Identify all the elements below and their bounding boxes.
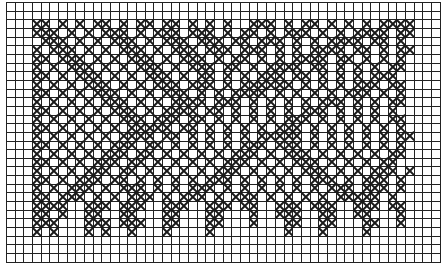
- grid-cell: [85, 237, 94, 246]
- stitch-cell: [267, 98, 276, 107]
- stitch-cell: [189, 159, 198, 168]
- grid-cell: [415, 107, 424, 116]
- grid-cell: [276, 254, 285, 263]
- grid-cell: [311, 245, 320, 254]
- grid-cell: [258, 254, 267, 263]
- grid-cell: [423, 228, 432, 237]
- grid-cell: [406, 228, 415, 237]
- grid-cell: [7, 90, 16, 99]
- grid-cell: [16, 81, 25, 90]
- grid-cell: [224, 211, 233, 220]
- grid-cell: [146, 237, 155, 246]
- grid-cell: [24, 245, 33, 254]
- stitch-cell: [276, 90, 285, 99]
- grid-cell: [293, 228, 302, 237]
- grid-cell: [276, 3, 285, 12]
- grid-cell: [423, 202, 432, 211]
- stitch-cell: [102, 20, 111, 29]
- stitch-cell: [311, 20, 320, 29]
- stitch-cell: [102, 202, 111, 211]
- grid-cell: [267, 3, 276, 12]
- grid-cell: [415, 55, 424, 64]
- grid-cell: [406, 64, 415, 73]
- grid-cell: [337, 219, 346, 228]
- grid-cell: [154, 3, 163, 12]
- stitch-cell: [354, 167, 363, 176]
- grid-cell: [432, 107, 441, 116]
- grid-cell: [406, 98, 415, 107]
- grid-cell: [146, 245, 155, 254]
- grid-cell: [423, 237, 432, 246]
- grid-cell: [432, 150, 441, 159]
- grid-cell: [198, 254, 207, 263]
- grid-cell: [189, 245, 198, 254]
- grid-cell: [389, 245, 398, 254]
- grid-cell: [7, 29, 16, 38]
- grid-cell: [7, 254, 16, 263]
- grid-cell: [380, 254, 389, 263]
- grid-cell: [423, 133, 432, 142]
- grid-cell: [337, 228, 346, 237]
- grid-cell: [423, 211, 432, 220]
- grid-cell: [293, 12, 302, 21]
- grid-cell: [345, 219, 354, 228]
- grid-cell: [16, 219, 25, 228]
- grid-cell: [415, 159, 424, 168]
- grid-cell: [16, 133, 25, 142]
- grid-cell: [16, 20, 25, 29]
- grid-cell: [250, 3, 259, 12]
- grid-cell: [302, 245, 311, 254]
- grid-cell: [380, 219, 389, 228]
- grid-cell: [406, 142, 415, 151]
- grid-cell: [33, 254, 42, 263]
- grid-cell: [224, 237, 233, 246]
- grid-cell: [363, 237, 372, 246]
- grid-cell: [137, 245, 146, 254]
- grid-cell: [423, 98, 432, 107]
- grid-cell: [42, 245, 51, 254]
- stitch-cell: [328, 185, 337, 194]
- grid-cell: [59, 245, 68, 254]
- stitch-cell: [42, 72, 51, 81]
- grid-cell: [432, 124, 441, 133]
- grid-cell: [111, 254, 120, 263]
- grid-cell: [432, 72, 441, 81]
- grid-cell: [76, 237, 85, 246]
- grid-cell: [345, 237, 354, 246]
- stitch-cell: [267, 133, 276, 142]
- grid-cell: [389, 237, 398, 246]
- grid-cell: [432, 116, 441, 125]
- stitch-cell: [198, 98, 207, 107]
- grid-cell: [120, 3, 129, 12]
- stitch-cell: [302, 81, 311, 90]
- grid-cell: [232, 20, 241, 29]
- stitch-cell: [163, 133, 172, 142]
- grid-cell: [423, 167, 432, 176]
- grid-cell: [285, 3, 294, 12]
- grid-cell: [146, 228, 155, 237]
- grid-cell: [7, 237, 16, 246]
- stitch-cell: [397, 150, 406, 159]
- grid-cell: [345, 245, 354, 254]
- grid-cell: [415, 90, 424, 99]
- grid-cell: [432, 29, 441, 38]
- grid-cell: [215, 3, 224, 12]
- grid-cell: [406, 254, 415, 263]
- grid-cell: [189, 202, 198, 211]
- stitch-cell: [354, 116, 363, 125]
- grid-cell: [415, 64, 424, 73]
- grid-cell: [415, 124, 424, 133]
- grid-cell: [68, 237, 77, 246]
- grid-cell: [7, 142, 16, 151]
- grid-cell: [406, 150, 415, 159]
- grid-cell: [7, 245, 16, 254]
- grid-cell: [423, 64, 432, 73]
- grid-cell: [258, 3, 267, 12]
- grid-cell: [33, 3, 42, 12]
- stitch-cell: [102, 46, 111, 55]
- grid-cell: [24, 38, 33, 47]
- stitch-cell: [406, 133, 415, 142]
- grid-cell: [16, 228, 25, 237]
- stitch-cell: [50, 98, 59, 107]
- grid-cell: [415, 167, 424, 176]
